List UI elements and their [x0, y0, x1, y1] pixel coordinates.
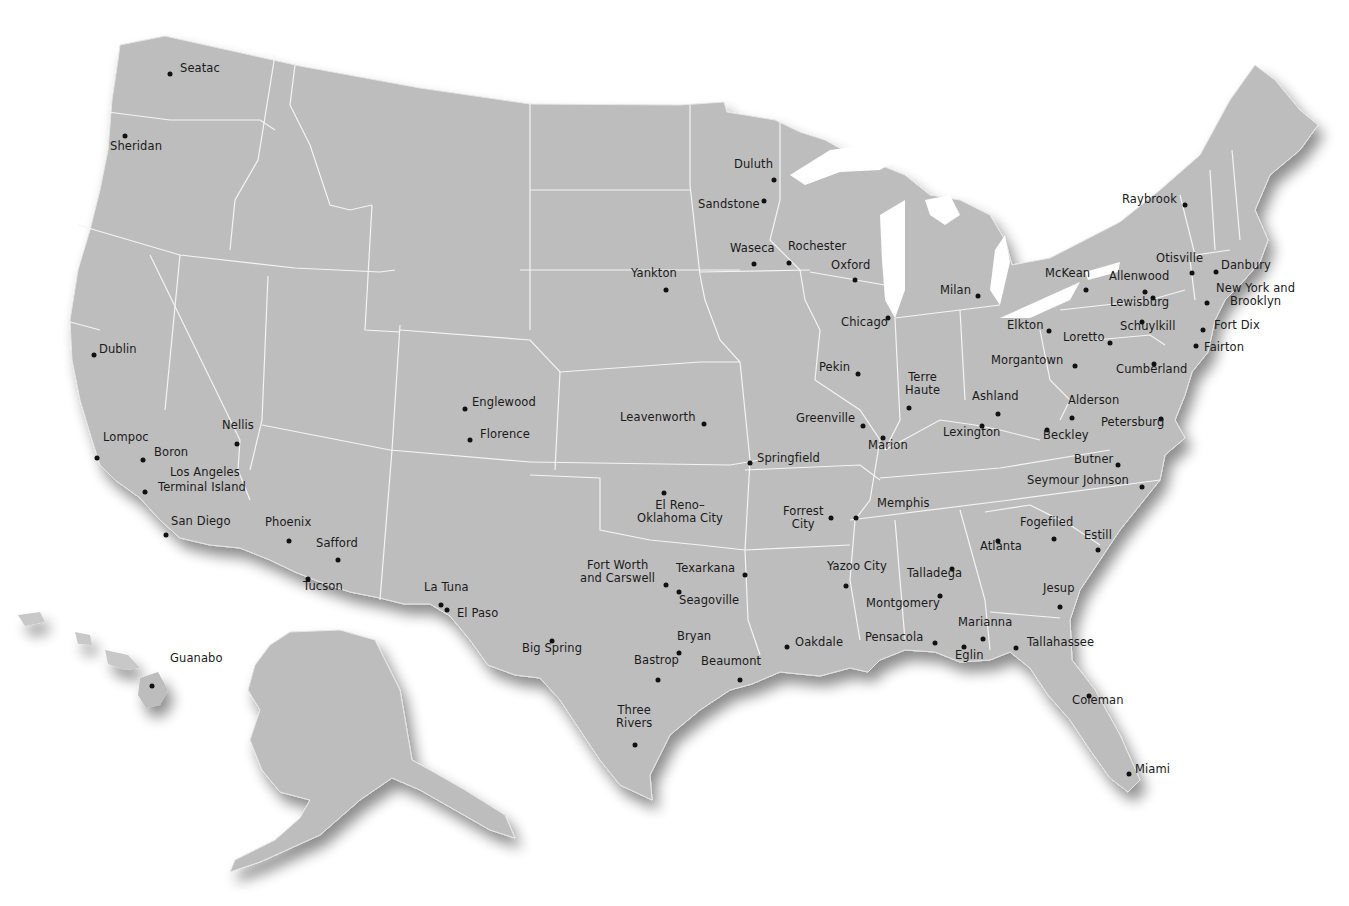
facility-label: Fort Dix — [1214, 319, 1260, 332]
facility-dot-icon — [976, 294, 981, 299]
facility-label: TerreHaute — [905, 371, 940, 397]
facility-label: Loretto — [1063, 331, 1105, 344]
facility-dot-icon — [1201, 328, 1206, 333]
facility-dot-icon — [150, 684, 155, 689]
facility-label: Nellis — [222, 419, 254, 432]
facility-dot-icon — [1073, 364, 1078, 369]
facility-label: Petersburg — [1101, 416, 1164, 429]
facility-dot-icon — [1194, 344, 1199, 349]
facility-dot-icon — [702, 422, 707, 427]
facility-dot-icon — [844, 584, 849, 589]
facility-label: Pensacola — [865, 631, 923, 644]
facility-label: Safford — [316, 537, 358, 550]
facility-label: Lewisburg — [1110, 296, 1169, 309]
facility-label: Yankton — [631, 267, 677, 280]
facility-label: Guanabo — [170, 652, 223, 665]
facility-label: Seagoville — [679, 594, 739, 607]
facility-dot-icon — [1190, 271, 1195, 276]
facility-label: El Reno–Oklahoma City — [637, 499, 723, 525]
facility-label: Morgantown — [991, 354, 1063, 367]
facility-label: Terminal Island — [158, 481, 246, 494]
facility-dot-icon — [1214, 270, 1219, 275]
facility-dot-icon — [664, 583, 669, 588]
facility-label: Chicago — [841, 316, 888, 329]
facility-label: Memphis — [877, 497, 930, 510]
facility-label: Raybrook — [1122, 193, 1177, 206]
facility-dot-icon — [752, 262, 757, 267]
facility-label: Bryan — [677, 630, 711, 643]
facility-dot-icon — [861, 424, 866, 429]
facility-label: Dublin — [99, 343, 137, 356]
facility-label: Seatac — [180, 62, 220, 75]
facility-dot-icon — [785, 645, 790, 650]
facility-label: Schuylkill — [1120, 320, 1175, 333]
facility-label: Oakdale — [795, 636, 843, 649]
facility-dot-icon — [141, 458, 146, 463]
facility-dot-icon — [95, 456, 100, 461]
facility-label: Fairton — [1204, 341, 1244, 354]
facility-label: Los Angeles — [170, 466, 240, 479]
facility-label: Otisville — [1156, 252, 1203, 265]
facility-label: ForrestCity — [783, 505, 824, 531]
facility-dot-icon — [762, 199, 767, 204]
facility-dot-icon — [662, 491, 667, 496]
facility-label: Sheridan — [110, 140, 162, 153]
facility-label: Boron — [154, 446, 188, 459]
facility-dot-icon — [143, 490, 148, 495]
facility-label: Ashland — [972, 390, 1019, 403]
facility-label: Tucson — [303, 580, 343, 593]
facility-label: McKean — [1045, 267, 1090, 280]
facility-dot-icon — [738, 678, 743, 683]
facility-label: Lompoc — [103, 431, 149, 444]
facility-dot-icon — [463, 407, 468, 412]
facility-dot-icon — [981, 637, 986, 642]
facility-dot-icon — [1143, 290, 1148, 295]
facility-label: Jesup — [1043, 582, 1075, 595]
facility-label: Allenwood — [1109, 270, 1169, 283]
facility-dot-icon — [787, 261, 792, 266]
facility-label: Fort Worthand Carswell — [580, 559, 655, 585]
facility-label: Tallahassee — [1027, 636, 1094, 649]
facility-dot-icon — [1014, 646, 1019, 651]
facility-label: New York andBrooklyn — [1216, 282, 1295, 308]
facility-label: Coleman — [1072, 694, 1124, 707]
facility-dot-icon — [336, 558, 341, 563]
facility-label: San Diego — [171, 515, 231, 528]
facility-dot-icon — [829, 516, 834, 521]
facility-dot-icon — [468, 438, 473, 443]
facility-dot-icon — [1070, 416, 1075, 421]
facility-label: La Tuna — [424, 581, 469, 594]
facility-dot-icon — [1127, 772, 1132, 777]
facility-dot-icon — [1096, 548, 1101, 553]
facility-label: Greenville — [796, 412, 855, 425]
facility-label: Elkton — [1007, 319, 1044, 332]
facility-label: Beaumont — [701, 655, 761, 668]
hawaii-big-island — [138, 672, 168, 708]
facility-dot-icon — [235, 442, 240, 447]
facility-dot-icon — [772, 178, 777, 183]
facility-label: Duluth — [734, 158, 773, 171]
facility-dot-icon — [445, 608, 450, 613]
facility-label: Talladega — [907, 567, 962, 580]
facility-dot-icon — [439, 603, 444, 608]
facility-dot-icon — [123, 134, 128, 139]
facility-label: Milan — [940, 284, 971, 297]
facility-label: Cumberland — [1116, 363, 1187, 376]
facility-dot-icon — [287, 539, 292, 544]
facility-dot-icon — [996, 412, 1001, 417]
facility-label: Eglin — [955, 649, 984, 662]
facility-label: Bastrop — [634, 654, 679, 667]
facility-dot-icon — [748, 461, 753, 466]
facility-label: Butner — [1074, 453, 1113, 466]
facility-label: Atlanta — [980, 540, 1022, 553]
facility-dot-icon — [853, 278, 858, 283]
facility-label: Rochester — [788, 240, 846, 253]
facility-dot-icon — [854, 516, 859, 521]
facility-dot-icon — [1205, 301, 1210, 306]
us-federal-facilities-map: SeatacSheridanDublinLompocBoronLos Angel… — [0, 0, 1349, 906]
facility-label: Texarkana — [676, 562, 735, 575]
facility-dot-icon — [1116, 463, 1121, 468]
facility-label: Big Spring — [522, 642, 582, 655]
facility-label: Pekin — [819, 361, 850, 374]
facility-label: Springfield — [757, 452, 820, 465]
